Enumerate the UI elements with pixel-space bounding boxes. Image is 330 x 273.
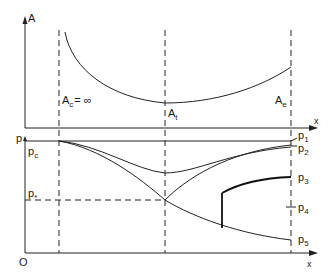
nozzle-diagram: A x Ac= ∞ At Ae p pc p* O x p1 p2 p3 p4 … — [0, 0, 330, 273]
p5-label: p5 — [298, 233, 309, 248]
area-x-axis-label: x — [314, 116, 319, 126]
chamber-pressure-label: pc — [28, 145, 38, 160]
throat-area-label: At — [168, 107, 178, 122]
pressure-y-axis-arrow-icon — [23, 136, 27, 141]
choked-subsonic-curve — [165, 145, 291, 200]
pressure-x-axis-label: x — [307, 259, 312, 269]
area-curve — [65, 32, 291, 103]
inlet-area-label: Ac= ∞ — [62, 94, 92, 109]
exit-area-label: Ae — [275, 94, 287, 109]
pressure-x-axis-arrow-icon — [309, 250, 318, 256]
p1-pointer — [291, 138, 297, 141]
supersonic-pressure-curve — [165, 200, 291, 240]
area-axis-label: A — [28, 12, 36, 24]
sonic-converging-curve — [59, 141, 165, 200]
p4-label: p4 — [298, 201, 309, 216]
p3-label: p3 — [298, 171, 309, 186]
post-shock-curve — [222, 177, 291, 193]
subsonic-pressure-curve — [59, 141, 291, 173]
area-y-axis-arrow-icon — [23, 16, 28, 24]
pressure-axis-label: p — [16, 132, 22, 144]
origin-label: O — [19, 256, 28, 268]
pressure-plot — [23, 136, 318, 256]
p2-label: p2 — [298, 142, 309, 157]
